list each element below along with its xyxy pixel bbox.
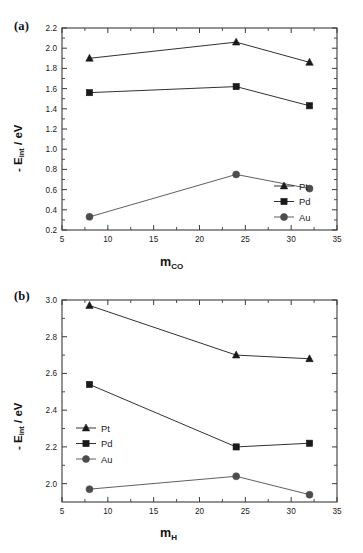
legend-label: Pd: [299, 196, 310, 207]
legend-label: Pt: [299, 181, 308, 192]
x-tick-label: 35: [332, 235, 342, 244]
legend: PtPdAu: [274, 181, 310, 223]
x-tick-label: 15: [149, 235, 159, 244]
panel-a: (a) - Eint / eV mCO 51015202530350.20.40…: [0, 0, 363, 278]
legend-marker-triangle: [82, 424, 89, 431]
x-tick-label: 30: [287, 507, 297, 516]
x-tick-label: 20: [195, 507, 205, 516]
data-point-circle: [86, 213, 93, 220]
series-pt: [86, 38, 313, 65]
x-tick-label: 5: [60, 507, 65, 516]
x-tick-label: 20: [195, 235, 205, 244]
data-point-square: [306, 440, 312, 446]
series-au: [86, 171, 313, 220]
y-tick-label: 0.6: [46, 186, 58, 195]
y-tick-label: 1.2: [46, 125, 58, 134]
series-pd: [86, 83, 312, 108]
y-tick-label: 2.6: [46, 369, 58, 378]
legend-marker-circle: [281, 214, 288, 221]
legend-label: Au: [299, 212, 310, 223]
y-tick-label: 1.8: [46, 64, 58, 73]
data-point-square: [233, 83, 239, 89]
data-point-circle: [233, 171, 240, 178]
x-tick-label: 15: [149, 507, 159, 516]
data-point-square: [86, 381, 92, 387]
y-tick-label: 3.0: [46, 296, 58, 305]
legend: PtPdAu: [76, 423, 112, 465]
x-tick-label: 10: [103, 235, 113, 244]
series-pt: [86, 302, 313, 362]
y-tick-label: 1.0: [46, 145, 58, 154]
panel-b: (b) - Eint / eV mH 51015202530352.02.22.…: [0, 278, 363, 553]
y-tick-label: 2.0: [46, 480, 58, 489]
legend-label: Pt: [101, 423, 110, 434]
y-tick-label: 1.4: [46, 105, 58, 114]
data-point-circle: [86, 486, 93, 493]
data-point-circle: [306, 491, 313, 498]
y-tick-label: 2.0: [46, 44, 58, 53]
legend-marker-circle: [83, 456, 90, 463]
y-tick-label: 2.8: [46, 333, 58, 342]
x-tick-label: 10: [103, 507, 113, 516]
legend-label: Au: [101, 454, 112, 465]
x-tick-label: 25: [241, 235, 251, 244]
x-tick-label: 25: [241, 507, 251, 516]
data-point-square: [233, 444, 239, 450]
data-point-circle: [233, 473, 240, 480]
x-tick-label: 30: [287, 235, 297, 244]
figure-container: (a) - Eint / eV mCO 51015202530350.20.40…: [0, 0, 363, 553]
data-point-square: [306, 103, 312, 109]
y-tick-label: 2.2: [46, 24, 58, 33]
data-point-triangle: [232, 38, 239, 45]
y-tick-label: 0.8: [46, 165, 58, 174]
legend-marker-square: [83, 440, 89, 446]
series-au: [86, 473, 313, 498]
y-tick-label: 2.2: [46, 443, 58, 452]
y-tick-label: 0.4: [46, 206, 58, 215]
series-pd: [86, 381, 312, 450]
panel-a-plot: 51015202530350.20.40.60.81.01.21.41.61.8…: [0, 0, 363, 278]
y-tick-label: 2.4: [46, 406, 58, 415]
data-point-square: [86, 90, 92, 96]
y-tick-label: 1.6: [46, 85, 58, 94]
x-tick-label: 5: [60, 235, 65, 244]
legend-label: Pd: [101, 438, 112, 449]
panel-b-plot: 51015202530352.02.22.42.62.83.0PtPdAu: [0, 278, 363, 553]
data-point-triangle: [86, 302, 93, 309]
y-tick-label: 0.2: [46, 226, 58, 235]
legend-marker-square: [281, 198, 287, 204]
x-tick-label: 35: [332, 507, 342, 516]
